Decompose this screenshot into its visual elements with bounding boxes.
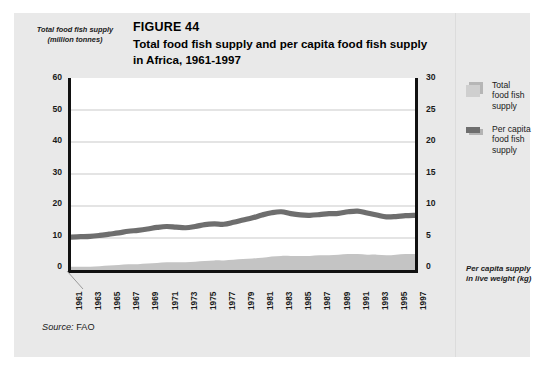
left-tick-0: 0: [38, 262, 62, 271]
legend-percapita-line2: food fish: [492, 134, 525, 144]
x-tick-1963: 1963: [93, 292, 103, 310]
x-tick-1975: 1975: [208, 292, 218, 310]
thick-line-swatch-icon: [466, 126, 484, 142]
figure-title-line1: Total food fish supply and per capita fo…: [133, 37, 427, 50]
x-tick-1961: 1961: [74, 292, 84, 310]
left-axis-title-line1: Total food fish supply: [37, 25, 114, 34]
legend-percapita-line1: Per capita: [492, 124, 531, 134]
x-tick-1967: 1967: [131, 292, 141, 310]
x-tick-1969: 1969: [150, 292, 160, 310]
right-axis-title: Per capita supply in live weight (kg): [466, 264, 540, 284]
figure-number: FIGURE 44: [133, 20, 199, 34]
legend-label-per-capita: Per capita food fish supply: [492, 124, 544, 155]
figure-title: Total food fish supply and per capita fo…: [133, 36, 463, 67]
right-tick-30: 30: [426, 73, 450, 82]
stacked-square-swatch-icon: [466, 82, 484, 98]
left-axis-title: Total food fish supply (million tonnes): [22, 25, 128, 45]
x-tick-1987: 1987: [322, 292, 332, 310]
per-capita-area: [71, 254, 415, 270]
source-note: Source: FAO: [42, 322, 95, 332]
left-tick-30: 30: [38, 168, 62, 177]
right-axis-title-line1: Per capita supply: [466, 264, 531, 273]
x-tick-1983: 1983: [284, 292, 294, 310]
source-value: FAO: [76, 322, 94, 332]
x-axis-year-labels: 1961196319651967196919711973197519771979…: [68, 276, 418, 316]
chart-svg: [71, 78, 415, 270]
right-tick-10: 10: [426, 199, 450, 208]
legend-total-line3: supply: [492, 101, 517, 111]
figure-title-line2: in Africa, 1961-1997: [133, 53, 241, 66]
figure-container: Total food fish supply (million tonnes) …: [0, 0, 544, 370]
legend-total-line1: Total: [492, 80, 510, 90]
right-tick-15: 15: [426, 168, 450, 177]
plot-area: [71, 78, 415, 270]
right-axis-title-line2: in live weight (kg): [466, 274, 531, 283]
x-tick-1971: 1971: [170, 292, 180, 310]
right-tick-20: 20: [426, 136, 450, 145]
left-tick-10: 10: [38, 231, 62, 240]
x-tick-1997: 1997: [418, 292, 428, 310]
left-tick-50: 50: [38, 105, 62, 114]
x-tick-1995: 1995: [399, 292, 409, 310]
x-tick-1981: 1981: [265, 292, 275, 310]
x-tick-1993: 1993: [380, 292, 390, 310]
x-tick-1979: 1979: [246, 292, 256, 310]
legend-label-total-supply: Total food fish supply: [492, 80, 544, 111]
legend-total-line2: food fish: [492, 90, 525, 100]
left-tick-20: 20: [38, 199, 62, 208]
right-tick-25: 25: [426, 105, 450, 114]
legend-percapita-line3: supply: [492, 145, 517, 155]
right-tick-0: 0: [426, 262, 450, 271]
left-axis-title-line2: (million tonnes): [47, 35, 102, 44]
x-tick-1973: 1973: [189, 292, 199, 310]
left-tick-40: 40: [38, 136, 62, 145]
right-tick-5: 5: [426, 231, 450, 240]
x-tick-1985: 1985: [303, 292, 313, 310]
x-tick-1977: 1977: [227, 292, 237, 310]
x-tick-1991: 1991: [361, 292, 371, 310]
left-tick-60: 60: [38, 73, 62, 82]
x-tick-1965: 1965: [112, 292, 122, 310]
total-supply-line: [71, 211, 415, 237]
source-label: Source:: [42, 322, 74, 332]
x-tick-1989: 1989: [342, 292, 352, 310]
